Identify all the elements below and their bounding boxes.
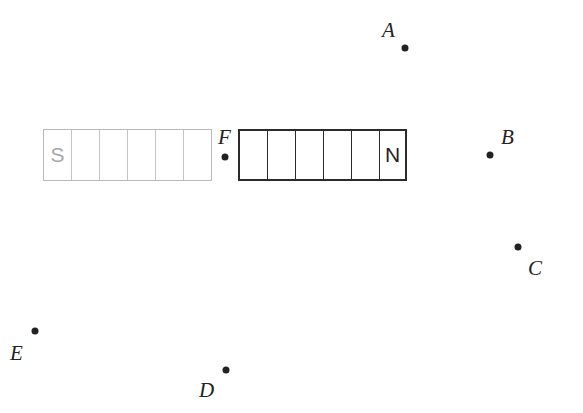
ghost-magnet-cell: [72, 130, 100, 180]
point-a-label: A: [382, 20, 395, 41]
ghost-magnet-cell-s-pole: S: [44, 130, 72, 180]
point-a-dot: [402, 45, 409, 52]
point-c-dot: [515, 244, 522, 251]
point-f-label: F: [218, 127, 231, 148]
ghost-magnet-cell: [100, 130, 128, 180]
point-e-label: E: [10, 343, 23, 364]
point-c-label: C: [528, 258, 542, 279]
point-e-dot: [32, 328, 39, 335]
solid-magnet: N: [238, 129, 407, 181]
solid-magnet-cell: [352, 131, 380, 179]
point-d-dot: [223, 367, 230, 374]
solid-magnet-cell-n-pole: N: [380, 131, 405, 179]
ghost-magnet-cell: [128, 130, 156, 180]
solid-magnet-cell: [268, 131, 296, 179]
point-f-dot: [222, 154, 229, 161]
ghost-magnet-cell: [184, 130, 211, 180]
solid-magnet-cell: [296, 131, 324, 179]
solid-magnet-cell: [324, 131, 352, 179]
ghost-magnet-cell: [156, 130, 184, 180]
point-b-label: B: [501, 127, 514, 148]
solid-magnet-cell: [240, 131, 268, 179]
point-d-label: D: [199, 380, 214, 401]
point-b-dot: [487, 152, 494, 159]
ghost-magnet: S: [43, 129, 212, 181]
